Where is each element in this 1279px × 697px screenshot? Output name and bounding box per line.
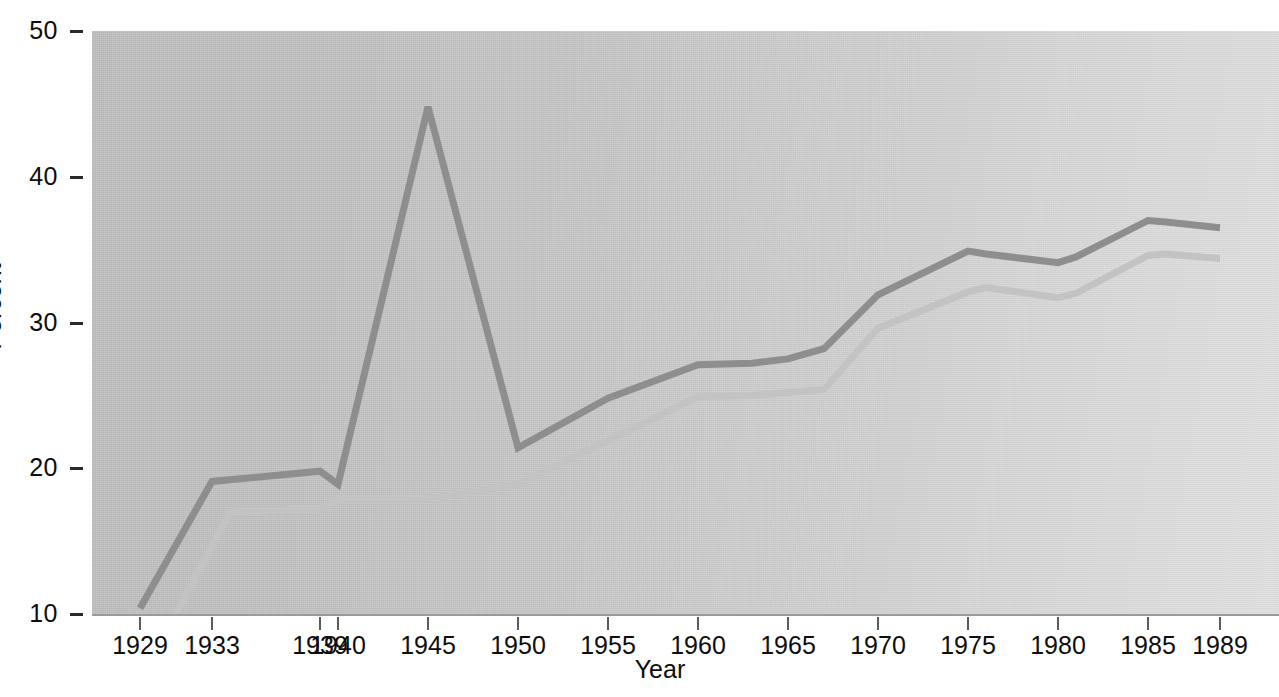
x-tick-label: 1950 xyxy=(490,633,546,658)
x-tick-label: 1933 xyxy=(184,633,240,658)
x-axis-ticks: 1929193319391940194519501955196019651970… xyxy=(0,0,1279,697)
x-tick-mark xyxy=(337,617,339,630)
x-tick-label: 1980 xyxy=(1030,633,1086,658)
x-tick-mark xyxy=(697,617,699,630)
x-tick-label: 1965 xyxy=(760,633,816,658)
x-tick-mark xyxy=(427,617,429,630)
x-tick-label: 1985 xyxy=(1120,633,1176,658)
x-tick-label: 1989 xyxy=(1192,633,1248,658)
x-tick-mark xyxy=(787,617,789,630)
x-tick-mark xyxy=(517,617,519,630)
x-tick-mark xyxy=(967,617,969,630)
x-tick-mark xyxy=(139,617,141,630)
x-tick-mark xyxy=(877,617,879,630)
y-axis-title: Percent xyxy=(0,263,7,349)
x-axis-title: Year xyxy=(635,655,686,684)
x-tick-mark xyxy=(1057,617,1059,630)
x-tick-mark xyxy=(319,617,321,630)
x-tick-label: 1945 xyxy=(400,633,456,658)
x-tick-mark xyxy=(1147,617,1149,630)
x-tick-label: 1975 xyxy=(940,633,996,658)
x-tick-mark xyxy=(607,617,609,630)
x-tick-mark xyxy=(1219,617,1221,630)
x-tick-label: 1929 xyxy=(112,633,168,658)
chart-figure: 1020304050 19291933193919401945195019551… xyxy=(0,0,1279,697)
x-tick-label: 1955 xyxy=(580,633,636,658)
x-tick-label: 1970 xyxy=(850,633,906,658)
x-tick-mark xyxy=(211,617,213,630)
x-tick-label: 1940 xyxy=(310,633,366,658)
